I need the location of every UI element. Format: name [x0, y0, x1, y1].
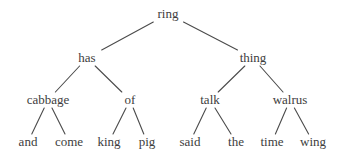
edge-walrus-wing: [294, 108, 308, 134]
tree-node-of: of: [125, 92, 137, 107]
tree-node-pig: pig: [139, 134, 156, 149]
tree-node-wing: wing: [300, 134, 327, 149]
tree-node-talk: talk: [200, 92, 220, 107]
tree-node-cabbage: cabbage: [27, 92, 70, 107]
edge-talk-said: [194, 108, 206, 134]
tree-node-ring: ring: [158, 6, 179, 21]
tree-diagram: ring has thing cabbage of talk walrus an…: [0, 0, 338, 161]
edge-talk-the: [215, 108, 231, 134]
edge-cabbage-come: [52, 108, 65, 134]
tree-node-thing: thing: [240, 50, 267, 65]
edge-thing-walrus: [260, 66, 283, 92]
edge-has-of: [95, 66, 122, 92]
edge-cabbage-and: [32, 108, 44, 134]
tree-node-the: the: [228, 134, 244, 149]
tree-node-time: time: [260, 134, 283, 149]
edge-of-king: [113, 108, 126, 134]
edge-of-pig: [133, 108, 144, 134]
tree-node-come: come: [55, 134, 83, 149]
tree-nodes: ring has thing cabbage of talk walrus an…: [19, 6, 327, 149]
edge-ring-thing: [184, 22, 238, 50]
edge-walrus-time: [275, 108, 286, 134]
edge-thing-talk: [218, 66, 245, 92]
tree-node-walrus: walrus: [273, 92, 308, 107]
tree-edges: [32, 22, 309, 134]
tree-canvas: ring has thing cabbage of talk walrus an…: [0, 0, 338, 161]
tree-node-said: said: [180, 134, 201, 149]
edge-ring-has: [102, 22, 154, 50]
tree-node-and: and: [19, 134, 38, 149]
edge-has-cabbage: [55, 66, 79, 92]
tree-node-has: has: [78, 50, 95, 65]
tree-node-king: king: [97, 134, 121, 149]
